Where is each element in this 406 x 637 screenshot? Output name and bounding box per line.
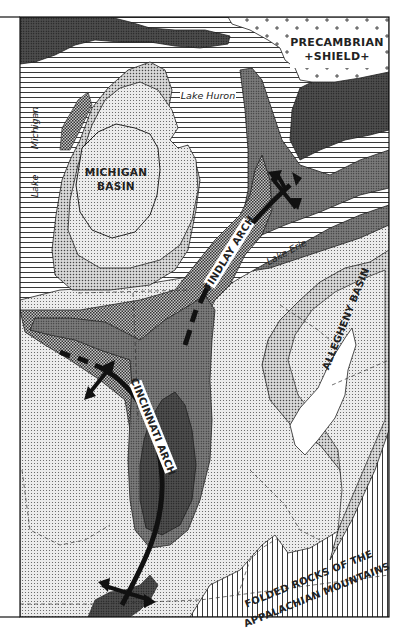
label-precambrian: PRECAMBRIAN [290, 36, 384, 49]
label-lake-michigan-2: Michigan [29, 107, 40, 150]
label-lake-huron: Lake Huron [181, 90, 235, 101]
label-shield: +SHIELD+ [304, 50, 370, 63]
label-michigan-basin-2: BASIN [97, 180, 135, 192]
label-michigan-basin-1: MICHIGAN [85, 166, 148, 178]
geologic-map: PRECAMBRIAN +SHIELD+ Lake Huron Lake Mic… [0, 0, 406, 637]
label-lake-michigan-1: Lake [29, 175, 40, 198]
